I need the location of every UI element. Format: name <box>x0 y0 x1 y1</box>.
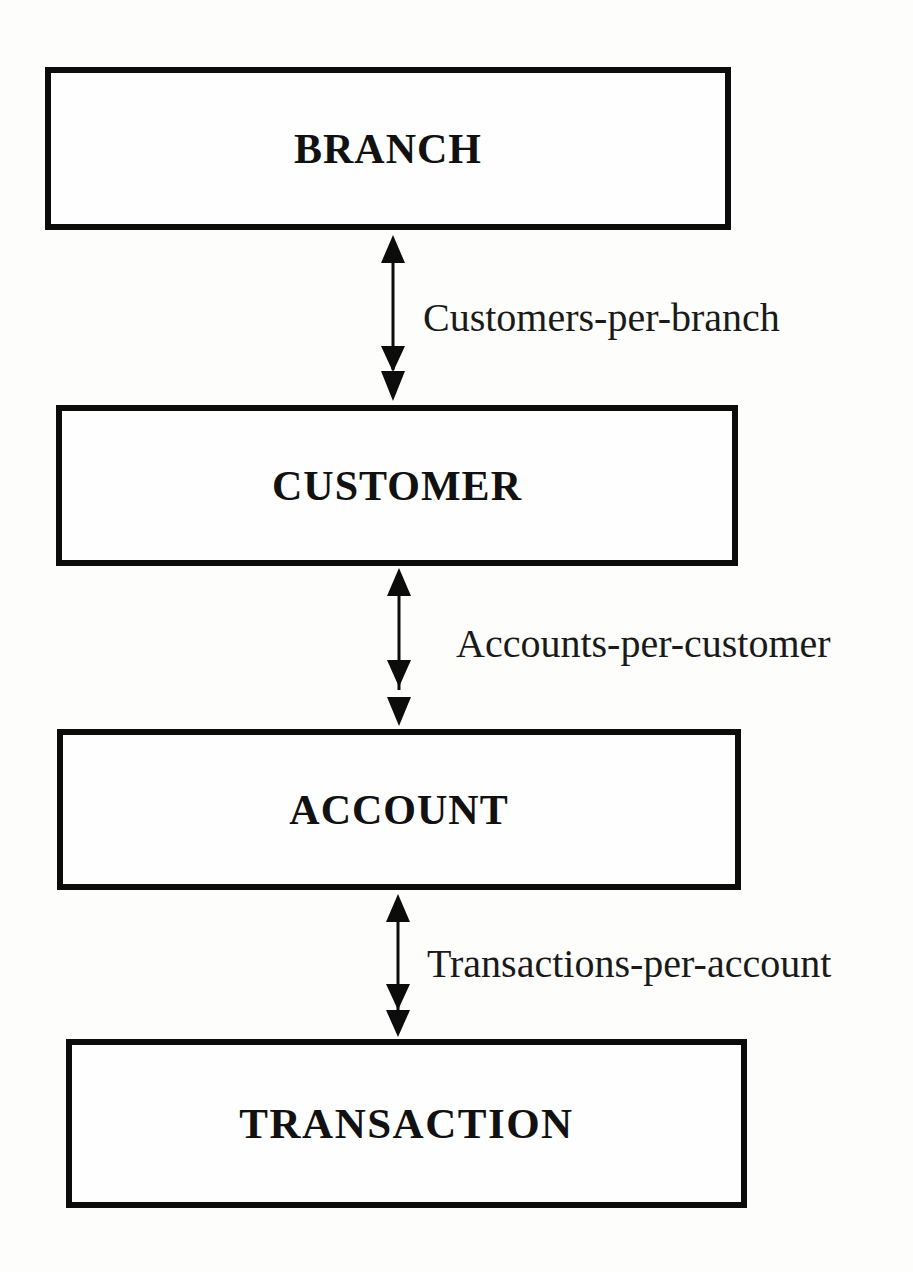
arrow-up-icon <box>381 235 405 263</box>
entity-branch-title: BRANCH <box>294 125 482 173</box>
entity-transaction-title: TRANSACTION <box>239 1099 573 1148</box>
arrow-down-icon <box>386 1010 410 1037</box>
relationship-label-customers-per-branch: Customers-per-branch <box>423 298 780 338</box>
entity-transaction: TRANSACTION <box>66 1039 747 1208</box>
entity-account: ACCOUNT <box>57 729 741 890</box>
entity-branch: BRANCH <box>45 67 731 230</box>
entity-customer: CUSTOMER <box>56 405 738 566</box>
arrow-down-icon <box>381 371 405 401</box>
entity-account-title: ACCOUNT <box>289 786 508 834</box>
arrow-up-icon <box>387 568 411 596</box>
connector-transactions-per-account <box>386 894 410 1037</box>
arrow-down-icon <box>387 697 411 726</box>
arrow-down-icon <box>381 346 405 372</box>
relationship-label-transactions-per-account: Transactions-per-account <box>427 944 831 984</box>
entity-customer-title: CUSTOMER <box>272 462 522 510</box>
connector-accounts-per-customer <box>387 568 411 726</box>
arrow-down-icon <box>387 660 411 687</box>
connector-customers-per-branch <box>381 235 405 401</box>
arrow-down-icon <box>386 984 410 1010</box>
relationship-label-accounts-per-customer: Accounts-per-customer <box>456 624 831 664</box>
arrow-up-icon <box>386 894 410 922</box>
